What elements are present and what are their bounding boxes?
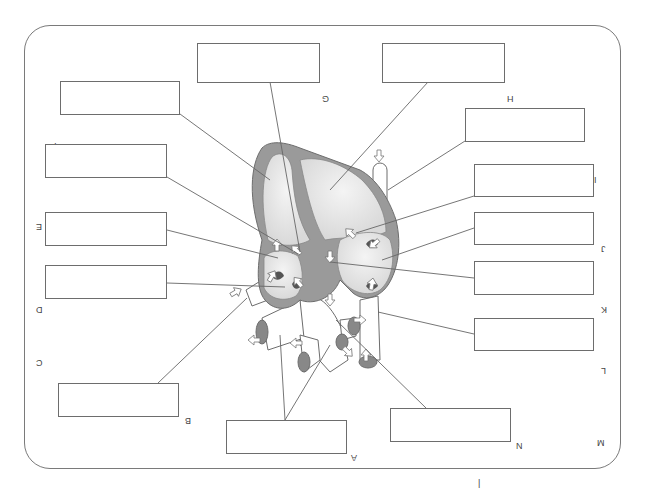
label-box-j[interactable] xyxy=(474,164,594,197)
label-box-l[interactable] xyxy=(474,261,594,295)
label-box-n[interactable] xyxy=(390,408,511,442)
label-letter-b: B xyxy=(185,416,191,425)
label-letter-j: J xyxy=(601,244,606,253)
label-letter-i: I xyxy=(594,175,597,184)
label-letter-n: N xyxy=(516,441,523,450)
label-box-m[interactable] xyxy=(474,318,594,351)
label-letter-m: M xyxy=(597,438,605,447)
label-box-i[interactable] xyxy=(465,108,585,142)
label-box-d[interactable] xyxy=(45,212,167,246)
label-box-k[interactable] xyxy=(474,212,594,245)
label-letter-c: C xyxy=(36,358,43,367)
label-box-g[interactable] xyxy=(197,43,320,83)
label-box-a[interactable] xyxy=(226,420,347,454)
label-letter-a: A xyxy=(351,453,357,462)
label-letter-l: L xyxy=(601,366,606,375)
footer-mark: | xyxy=(478,478,480,488)
chamber-k xyxy=(337,232,393,293)
label-box-h[interactable] xyxy=(382,43,505,83)
label-box-c[interactable] xyxy=(45,265,167,299)
label-letter-k: K xyxy=(601,305,607,314)
label-letter-d: D xyxy=(36,305,43,314)
label-letter-e: E xyxy=(36,222,42,231)
label-box-e[interactable] xyxy=(45,144,167,178)
label-letter-g: G xyxy=(322,94,329,103)
label-box-b[interactable] xyxy=(58,383,179,417)
label-box-f[interactable] xyxy=(60,81,180,115)
label-letter-h: H xyxy=(507,94,514,103)
